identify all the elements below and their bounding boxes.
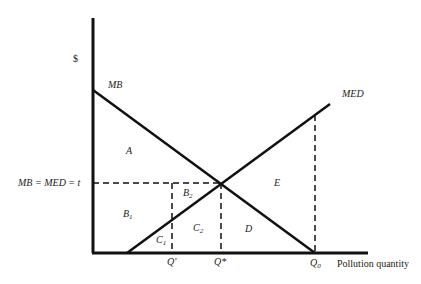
y-axis-label: $ — [73, 53, 78, 64]
mb-label: MB — [107, 79, 122, 90]
x-axis-label: Pollution quantity — [337, 258, 409, 269]
med-curve — [127, 104, 330, 253]
q-star-label: Q* — [214, 256, 226, 267]
region-c2-label: C2 — [193, 222, 204, 235]
equilibrium-label: MB = MED = t — [17, 177, 81, 188]
region-a-label: A — [125, 145, 133, 156]
region-b1-label: B1 — [123, 208, 133, 221]
q-prime-label: Q' — [167, 256, 177, 267]
mb-curve — [93, 90, 315, 253]
region-c1-label: C1 — [156, 234, 166, 247]
med-label: MED — [341, 88, 364, 99]
region-d-label: D — [244, 223, 253, 234]
q0-label: Q0 — [310, 257, 321, 270]
pollution-tax-diagram: $ Pollution quantity MB MED MB = MED = t… — [0, 0, 421, 284]
region-e-label: E — [273, 177, 280, 188]
region-b2-label: B2 — [183, 187, 193, 200]
